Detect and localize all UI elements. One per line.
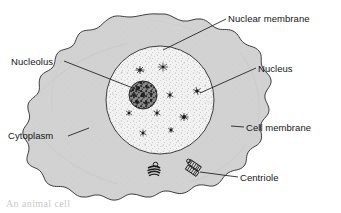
label-cytoplasm: Cytoplasm: [8, 130, 53, 141]
animal-cell-diagram: [0, 0, 341, 213]
label-nuclear-membrane: Nuclear membrane: [228, 13, 310, 24]
cut-off-caption-strip: An animal cell: [0, 200, 341, 213]
label-nucleus: Nucleus: [258, 63, 293, 74]
nucleus: [106, 46, 214, 154]
label-centriole: Centriole: [240, 172, 278, 183]
cut-off-caption-text: An animal cell: [6, 200, 70, 209]
label-cell-membrane: Cell membrane: [246, 122, 311, 133]
nuclear-membrane: [106, 46, 214, 154]
label-nucleolus: Nucleolus: [11, 56, 53, 67]
nucleolus: [129, 81, 157, 109]
